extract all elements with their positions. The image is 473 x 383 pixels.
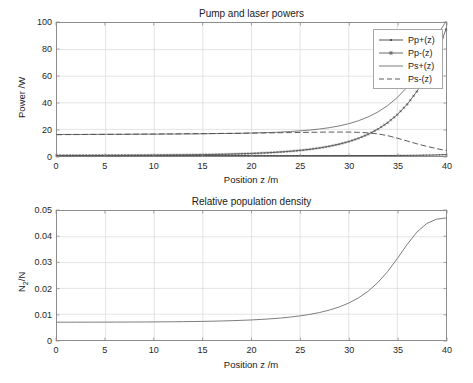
legend-item[interactable]: Pp-(z) bbox=[378, 46, 437, 59]
y-tick-label: 0 bbox=[18, 336, 52, 346]
x-tick-label: 15 bbox=[198, 345, 208, 355]
x-tick-label: 30 bbox=[344, 161, 354, 171]
legend-item[interactable]: Ps-(z) bbox=[378, 72, 437, 85]
legend-label: Pp+(z) bbox=[408, 34, 435, 46]
x-tick-label: 15 bbox=[198, 161, 208, 171]
legend-sample-line-asterisk bbox=[378, 47, 404, 59]
x-tick-label: 0 bbox=[53, 345, 58, 355]
legend-label: Ps+(z) bbox=[408, 60, 434, 72]
bottom-chart-title: Relative population density bbox=[56, 196, 447, 207]
x-tick-label: 5 bbox=[102, 345, 107, 355]
x-tick-label: 35 bbox=[393, 345, 403, 355]
legend-sample-line-dot bbox=[378, 34, 404, 46]
y-tick-label: 20 bbox=[18, 125, 52, 135]
legend-sample-line-dashed bbox=[378, 73, 404, 85]
x-tick-label: 20 bbox=[246, 161, 256, 171]
y-tick-label: 0.02 bbox=[18, 284, 52, 294]
x-tick-label: 10 bbox=[149, 161, 159, 171]
legend-label: Pp-(z) bbox=[408, 47, 433, 59]
bottom-x-axis-label: Position z /m bbox=[224, 359, 278, 370]
x-tick-label: 35 bbox=[393, 161, 403, 171]
x-tick-label: 30 bbox=[344, 345, 354, 355]
y-tick-label: 0 bbox=[18, 152, 52, 162]
bottom-y-axis-label-denominator: /N bbox=[16, 272, 27, 282]
x-tick-label: 0 bbox=[53, 161, 58, 171]
legend-item[interactable]: Pp+(z) bbox=[378, 33, 437, 46]
x-tick-label: 40 bbox=[442, 345, 452, 355]
y-tick-label: 0.05 bbox=[18, 205, 52, 215]
y-tick-label: 0.04 bbox=[18, 231, 52, 241]
legend-label: Ps-(z) bbox=[408, 73, 432, 85]
y-tick-label: 0.01 bbox=[18, 310, 52, 320]
legend-sample-line-plain bbox=[378, 60, 404, 72]
y-tick-label: 100 bbox=[18, 17, 52, 27]
x-tick-label: 25 bbox=[295, 345, 305, 355]
top-x-axis-label: Position z /m bbox=[224, 174, 278, 185]
figure-canvas: Pump and laser powers Power /W Position … bbox=[0, 0, 473, 383]
x-tick-label: 10 bbox=[149, 345, 159, 355]
y-tick-label: 40 bbox=[18, 98, 52, 108]
x-tick-label: 40 bbox=[442, 161, 452, 171]
x-tick-label: 25 bbox=[295, 161, 305, 171]
top-chart-title: Pump and laser powers bbox=[56, 8, 447, 19]
legend-item[interactable]: Ps+(z) bbox=[378, 59, 437, 72]
y-tick-label: 60 bbox=[18, 71, 52, 81]
x-tick-label: 20 bbox=[246, 345, 256, 355]
y-tick-label: 80 bbox=[18, 44, 52, 54]
y-tick-label: 0.03 bbox=[18, 257, 52, 267]
legend: Pp+(z)Pp-(z)Ps+(z)Ps-(z) bbox=[373, 29, 443, 89]
x-tick-label: 5 bbox=[102, 161, 107, 171]
